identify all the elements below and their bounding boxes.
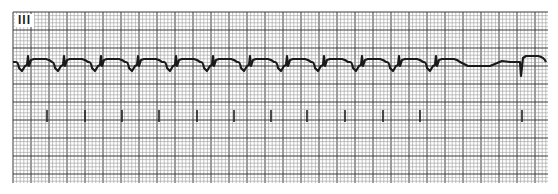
lead-label: III: [15, 14, 34, 27]
ecg-grid: [13, 12, 548, 183]
ecg-strip: [0, 0, 558, 194]
